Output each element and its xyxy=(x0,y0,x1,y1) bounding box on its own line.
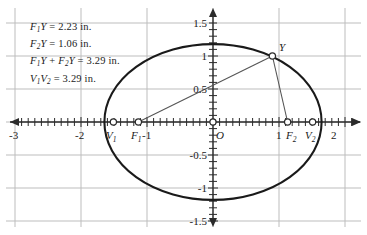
y-tick-label-1p5: 1.5 xyxy=(193,17,207,29)
x-tick-label-neg2: -2 xyxy=(75,129,84,141)
y-tick-label-0p5: 0.5 xyxy=(193,83,207,95)
x-tick-label-neg3: -3 xyxy=(9,129,19,141)
x-axis xyxy=(10,118,361,126)
ellipse-figure: -3 -2 -1 1 2 1.5 1 0.5 -0.5 -1 -1.5 V1 F… xyxy=(0,0,367,235)
x-tick-label-neg1: -1 xyxy=(142,129,151,141)
y-axis-bottom-arrow xyxy=(209,218,217,227)
y-tick-label-neg0p5: -0.5 xyxy=(190,149,208,161)
label-origin: O xyxy=(216,129,224,141)
label-y: Y xyxy=(279,41,287,53)
point-marker-y xyxy=(269,53,275,59)
measurement-annotations: F1Y = 2.23 in. F2Y = 1.06 in. F1Y + F2Y … xyxy=(30,20,120,89)
y-tick-label-neg1: -1 xyxy=(198,182,207,194)
point-marker-f2 xyxy=(285,119,291,125)
point-marker-v2 xyxy=(310,119,316,125)
annotation-line-2: F2Y = 1.06 in. xyxy=(30,37,120,54)
point-marker-v1 xyxy=(110,119,116,125)
x-axis-right-arrow xyxy=(352,118,361,126)
point-marker-f1 xyxy=(135,119,141,125)
y-tick-label-neg1p5: -1.5 xyxy=(190,215,208,227)
annotation-line-1: F1Y = 2.23 in. xyxy=(30,20,120,37)
label-v2: V2 xyxy=(305,129,316,144)
x-tick-label-1: 1 xyxy=(276,129,282,141)
y-axis-top-arrow xyxy=(209,8,217,17)
x-tick-label-2: 2 xyxy=(331,129,337,141)
label-f2: F2 xyxy=(285,129,297,144)
label-f1: F1 xyxy=(130,129,141,144)
annotation-line-3: F1Y + F2Y = 3.29 in. xyxy=(30,54,120,71)
y-tick-label-1: 1 xyxy=(202,50,208,62)
point-marker-origin xyxy=(210,119,216,125)
annotation-line-4: V1V2 = 3.29 in. xyxy=(30,72,120,89)
